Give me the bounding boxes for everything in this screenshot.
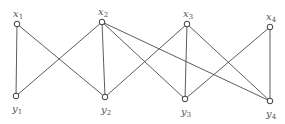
label-y3: y3 bbox=[180, 106, 191, 119]
edges-group bbox=[16, 22, 270, 101]
graph-svg: x1x2x3x4y1y2y3y4 bbox=[0, 0, 285, 124]
edge-x1-y1 bbox=[16, 24, 17, 96]
edge-x2-y2 bbox=[102, 22, 105, 97]
label-y2: y2 bbox=[100, 104, 111, 117]
bipartite-graph-diagram: x1x2x3x4y1y2y3y4 bbox=[0, 0, 285, 124]
node-y2 bbox=[102, 94, 108, 100]
label-y1: y1 bbox=[11, 103, 22, 116]
node-x2 bbox=[99, 19, 105, 25]
nodes-group bbox=[13, 19, 273, 104]
edge-x3-y2 bbox=[105, 24, 187, 97]
node-x3 bbox=[184, 21, 190, 27]
node-x4 bbox=[267, 24, 273, 30]
label-x3: x3 bbox=[183, 8, 193, 21]
node-y4 bbox=[267, 98, 273, 104]
node-y1 bbox=[13, 93, 19, 99]
node-x1 bbox=[14, 21, 20, 27]
label-x4: x4 bbox=[266, 11, 277, 24]
node-y3 bbox=[182, 96, 188, 102]
edge-x1-y2 bbox=[17, 24, 105, 97]
edge-x4-y3 bbox=[185, 27, 270, 99]
label-x2: x2 bbox=[98, 6, 108, 19]
edge-x2-y1 bbox=[16, 22, 102, 96]
label-x1: x1 bbox=[13, 8, 23, 21]
label-y4: y4 bbox=[265, 108, 277, 121]
labels-group: x1x2x3x4y1y2y3y4 bbox=[11, 6, 277, 121]
edge-x2-y3 bbox=[102, 22, 185, 99]
